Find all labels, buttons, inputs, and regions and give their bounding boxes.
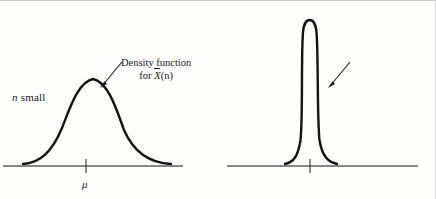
plot-n-large xyxy=(218,0,436,199)
panel-n-large: n large Density function for X(n) μ xyxy=(218,0,436,199)
annotation-line1-n-small: Density function xyxy=(121,57,191,68)
annotation-n-small: Density function for X(n) xyxy=(121,56,191,83)
annotation-for-text-n-small: for xyxy=(139,70,154,81)
panel-n-small: n small Density function for X(n) μ xyxy=(0,0,218,199)
mu-label-n-small: μ xyxy=(82,178,88,190)
density-curve-n-large xyxy=(285,20,337,164)
figure-container: n small Density function for X(n) μ n la… xyxy=(0,0,436,199)
annotation-line2-n-small: for X(n) xyxy=(121,69,191,82)
annotation-arrow-head-n-large xyxy=(328,81,335,88)
sample-size-qualifier-n-small: small xyxy=(18,91,46,103)
annotation-argument-n-small: (n) xyxy=(161,70,173,81)
sample-size-label-n-small: n small xyxy=(12,91,46,103)
xbar-symbol-n-small: X xyxy=(154,69,160,82)
